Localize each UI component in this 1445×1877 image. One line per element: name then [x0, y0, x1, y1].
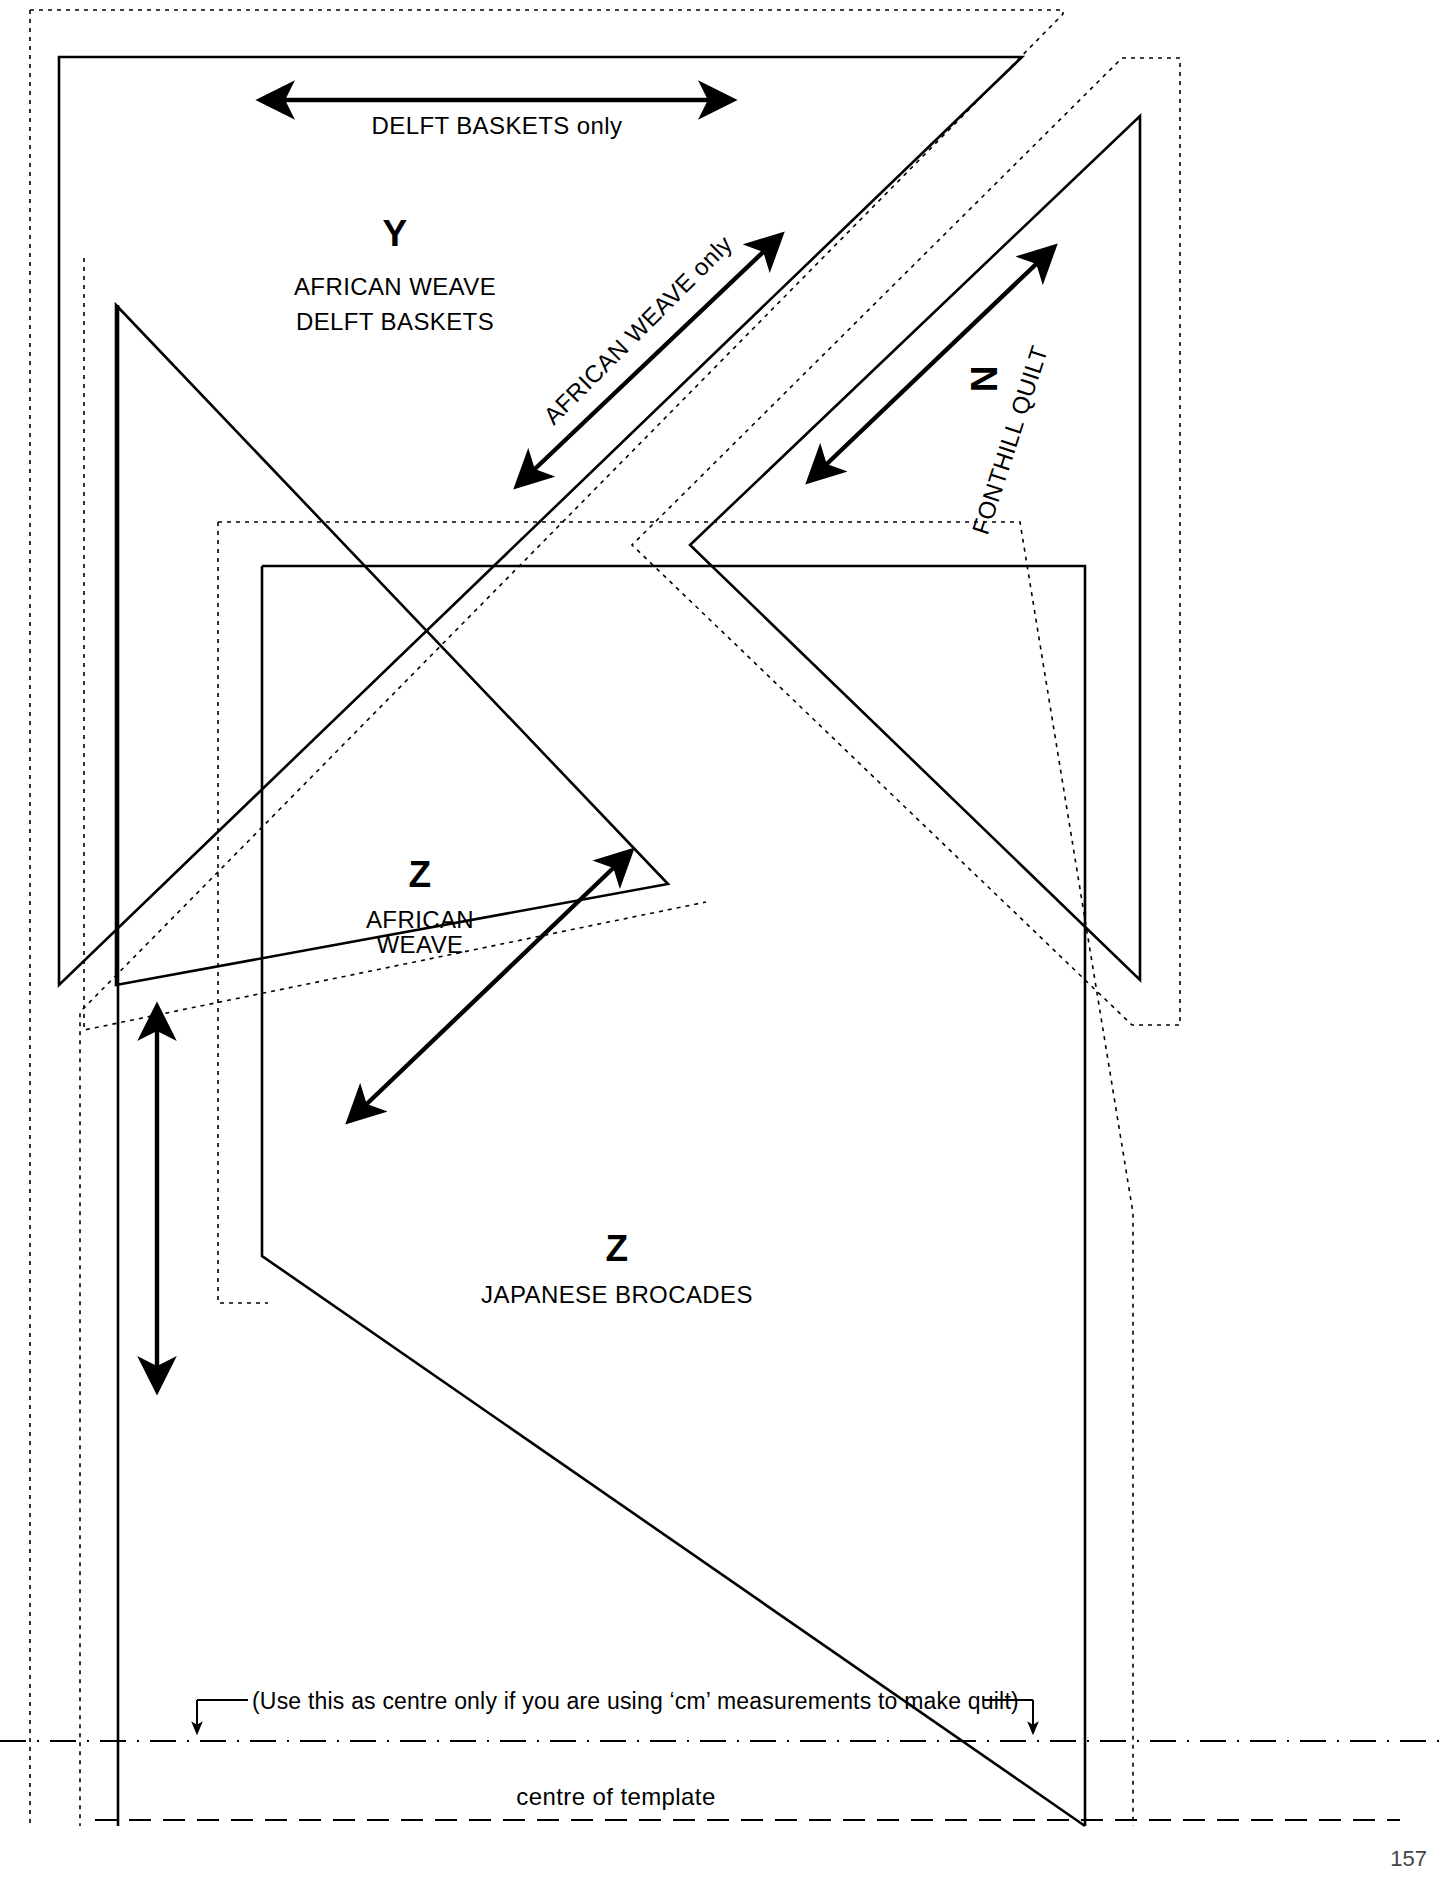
- grain-line-african-weave-arrow: [518, 236, 780, 485]
- label-piece-z-japanese-line1: JAPANESE BROCADES: [481, 1281, 753, 1309]
- label-cm-note: (Use this as centre only if you are usin…: [252, 1688, 1019, 1714]
- label-piece-z-african-line2: WEAVE: [377, 931, 464, 959]
- template-z-african-outline: [116, 305, 668, 985]
- label-piece-y-line1: AFRICAN WEAVE: [294, 273, 496, 301]
- label-piece-y-line2: DELFT BASKETS: [296, 308, 494, 336]
- template-sheet: DELFT BASKETS only Y AFRICAN WEAVE DELFT…: [0, 0, 1445, 1877]
- seam-allowance-outlines: [30, 10, 1180, 1826]
- seam-allowance-y: [30, 10, 1063, 1826]
- page-number: 157: [1390, 1846, 1427, 1871]
- label-piece-n-letter: N: [962, 365, 1005, 392]
- template-y-outline: [59, 57, 1022, 985]
- label-piece-z-japanese-letter: Z: [605, 1228, 628, 1271]
- grain-line-z-african-arrow: [350, 852, 630, 1120]
- template-drawing: [0, 0, 1445, 1877]
- label-piece-y-letter: Y: [382, 213, 407, 256]
- label-piece-z-african-line1: AFRICAN: [366, 906, 474, 934]
- template-n-outline: [690, 116, 1140, 980]
- seam-allowance-z-japanese-left: [218, 522, 268, 1303]
- seam-allowance-z-japanese-right: [218, 522, 1133, 1826]
- template-z-japanese-right: [262, 566, 1085, 1826]
- label-centre-of-template: centre of template: [516, 1783, 715, 1811]
- centre-reference-lines: [0, 1741, 1445, 1820]
- grain-line-arrows: [157, 100, 1053, 1389]
- seam-allowance-n: [632, 58, 1180, 1025]
- label-piece-z-african-letter: Z: [408, 854, 431, 897]
- label-delft-baskets-only: DELFT BASKETS only: [372, 112, 623, 140]
- template-z-japanese-left: [262, 566, 1085, 1826]
